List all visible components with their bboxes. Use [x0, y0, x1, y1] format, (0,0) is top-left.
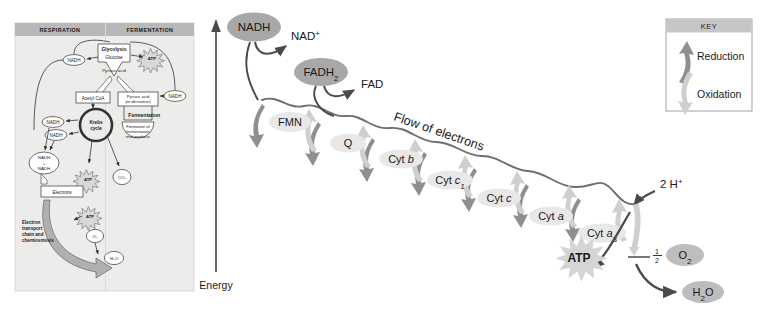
inset-nadh-3-label: NADH	[49, 133, 62, 138]
nadh-donor-node: NADH	[227, 13, 281, 42]
svg-text:transport: transport	[22, 226, 43, 231]
svg-text:chain and: chain and	[22, 232, 44, 237]
carrier-cyt-b: Cyt b	[379, 150, 423, 169]
key-oxidation-label: Oxidation	[697, 88, 742, 100]
energy-axis: Energy	[199, 19, 233, 291]
half-fraction-numerator: 1	[655, 248, 659, 255]
svg-text:O₂: O₂	[93, 234, 98, 239]
inset-nadh-1-label: NADH	[67, 58, 80, 63]
inset-atp-2-label: ATP	[84, 177, 92, 182]
half-fraction-denominator: 2	[655, 257, 659, 264]
carrier-cyt-a-label: Cyt a	[538, 210, 564, 222]
svg-text:chemiosmosis: chemiosmosis	[22, 238, 54, 243]
key-title: KEY	[701, 22, 717, 31]
inset-atp-1-label: ATP	[148, 56, 157, 61]
carrier-fmn-label: FMN	[278, 116, 302, 128]
overview-inset-panel: RESPIRATION FERMENTATION Glycolysis Gluc…	[15, 23, 194, 291]
nadh-to-nadplus-arrow	[255, 42, 286, 54]
nadh-to-chain-line	[246, 42, 258, 100]
svg-text:end-products: end-products	[126, 134, 150, 139]
inset-nadh-sum-top: NADH	[38, 155, 50, 160]
svg-text:NADH: NADH	[168, 94, 181, 99]
carrier-cyt-c-label: Cyt c	[486, 192, 512, 204]
key-reduction-label: Reduction	[697, 50, 744, 62]
svg-text:cycle: cycle	[90, 126, 102, 131]
key-legend-box: KEY Reduction Oxidation	[666, 19, 752, 115]
carrier-cyt-a: Cyt a	[529, 207, 573, 226]
inset-nadh-sum-bottom: NADH	[38, 166, 50, 171]
inset-header-fermentation: FERMENTATION	[127, 27, 174, 33]
figure-canvas: RESPIRATION FERMENTATION Glycolysis Gluc…	[0, 0, 768, 317]
h-plus-inflow-arrow	[634, 191, 655, 205]
energy-axis-arrowhead	[211, 19, 221, 32]
fadh2-to-fad-arrow	[324, 86, 354, 96]
nadplus-label: NAD+	[291, 29, 320, 43]
inset-node-etc-line1: Electron	[22, 220, 41, 225]
energy-axis-label: Energy	[199, 279, 233, 291]
oxidation-terminal-arrow	[634, 204, 638, 250]
svg-text:CO₂: CO₂	[118, 175, 126, 180]
inset-node-glucose: Glucose	[105, 55, 123, 60]
o2-to-water-arrow	[636, 264, 676, 292]
fadh2-to-chain-line	[314, 86, 334, 116]
nadh-label: NADH	[238, 21, 271, 33]
carrier-cyt-c: Cyt c	[477, 189, 521, 208]
svg-text:(or derivative): (or derivative)	[125, 99, 151, 104]
o2-node: O2	[666, 244, 704, 266]
inset-header-respiration: RESPIRATION	[40, 27, 81, 33]
electron-transport-chain-figure: RESPIRATION FERMENTATION Glycolysis Gluc…	[0, 0, 768, 317]
svg-text:+: +	[43, 161, 46, 166]
carrier-fmn: FMN	[269, 112, 311, 132]
svg-text:H₂O: H₂O	[110, 256, 119, 261]
inset-nadh-2-label: NADH	[46, 120, 59, 125]
inset-node-electrons: Electrons	[52, 190, 72, 195]
two-h-plus-label: 2 H+	[660, 177, 683, 191]
fad-label: FAD	[361, 78, 383, 90]
carrier-cyt-b-label: Cyt b	[388, 153, 414, 165]
atp-label: ATP	[567, 251, 590, 265]
h2o-node: H2O	[682, 281, 724, 303]
inset-node-krebs: Krebs	[89, 120, 102, 125]
inset-node-fermentation: Fermentation	[128, 112, 160, 118]
inset-atp-3-label: ATP	[86, 214, 94, 219]
inset-node-pyruvic-acid: Pyruvic acid	[102, 68, 126, 73]
carrier-q-label: Q	[344, 137, 353, 149]
carrier-q: Q	[330, 134, 366, 153]
inset-node-pyruvic-derivative: Pyruvic acid	[127, 94, 150, 99]
inset-node-glycolysis: Glycolysis	[101, 46, 126, 52]
inset-node-acetyl-coa: Acetyl CoA	[82, 96, 106, 101]
fadh2-donor-node: FADH2	[294, 58, 348, 86]
